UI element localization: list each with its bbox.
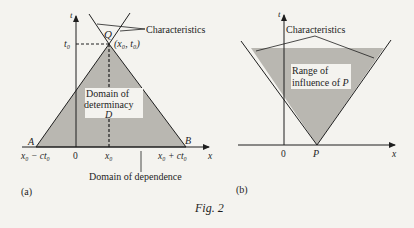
right-end-tick-label: x₀ + ct₀ [157, 151, 187, 161]
panel-b-tag: (b) [236, 184, 248, 196]
figure-caption: Fig. 2 [194, 201, 224, 215]
zero-tick-label-b: 0 [281, 149, 286, 159]
range-symbol-p: P [342, 77, 349, 88]
range-label-line2: influence of P [292, 77, 349, 88]
domain-of-dependence-label: Domain of dependence [89, 171, 182, 182]
range-label-line1: Range of [292, 65, 329, 76]
panel-a: t t₀ Q (x₀, t₀) Characteristics Domain o… [20, 10, 213, 198]
point-b-label: B [185, 135, 191, 146]
x-axis-label-a: x [207, 151, 213, 161]
range-of-influence-region [251, 48, 384, 145]
zero-tick-label-a: 0 [73, 151, 78, 161]
domain-symbol-d: D [104, 109, 113, 120]
panel-a-tag: (a) [21, 186, 32, 198]
range-label-text: influence of [292, 77, 341, 88]
x0-tick-label: x₀ [104, 151, 113, 161]
t0-tick-label: t₀ [64, 38, 71, 49]
point-a-label: A [27, 136, 35, 147]
t-axis-label-b: t [278, 9, 281, 19]
left-end-tick-label: x₀ − ct₀ [20, 151, 50, 161]
point-p-label: P [312, 148, 319, 159]
point-q-label: Q [104, 28, 112, 40]
x-axis-label-b: x [391, 149, 397, 159]
domain-label-line1: Domain of [86, 88, 130, 99]
point-q-coords: (x₀, t₀) [114, 38, 141, 50]
characteristics-pointer-2 [120, 29, 145, 31]
characteristics-label-b: Characteristics [286, 24, 346, 35]
t-axis-label-a: t [70, 10, 73, 20]
characteristics-label-a: Characteristics [146, 24, 206, 35]
panel-b: t Characteristics Range of influence of … [236, 9, 397, 196]
figure-canvas: t t₀ Q (x₀, t₀) Characteristics Domain o… [0, 0, 414, 228]
